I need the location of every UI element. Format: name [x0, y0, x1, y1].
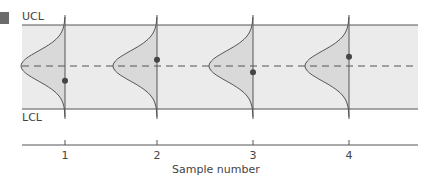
x-axis-ticks: 1234 [62, 140, 353, 162]
tick-label: 2 [154, 149, 161, 162]
sample-point [154, 57, 160, 63]
tick-label: 4 [346, 149, 353, 162]
sample-point [346, 54, 352, 60]
sample-point [62, 78, 68, 84]
control-chart: 1234 [0, 0, 435, 190]
tick-label: 1 [62, 149, 69, 162]
x-axis-title: Sample number [172, 163, 260, 176]
tick-label: 3 [250, 149, 257, 162]
sample-point [250, 69, 256, 75]
